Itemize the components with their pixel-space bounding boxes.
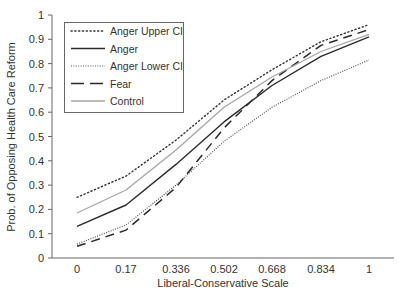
y-tick-label: 1	[38, 9, 44, 21]
x-tick-label: 0	[74, 263, 80, 275]
y-axis-title: Prob. of Opposing Health Care Reform	[5, 42, 17, 232]
y-tick-label: 0.8	[29, 58, 44, 70]
x-tick-label: 1	[366, 263, 372, 275]
y-tick-label: 0.6	[29, 106, 44, 118]
legend-label: Anger	[110, 43, 139, 55]
x-tick-label: 0.502	[210, 263, 238, 275]
y-tick-label: 0.9	[29, 33, 44, 45]
legend-label: Anger Lower CI	[110, 60, 183, 72]
y-tick-label: 0.5	[29, 131, 44, 143]
y-axis: 00.10.20.30.40.50.60.70.80.91	[29, 9, 52, 264]
legend: Anger Upper CIAngerAnger Lower CIFearCon…	[65, 23, 184, 113]
x-axis-title: Liberal-Conservative Scale	[157, 277, 288, 289]
y-tick-label: 0	[38, 252, 44, 264]
y-tick-label: 0.1	[29, 228, 44, 240]
legend-label: Anger Upper CI	[110, 25, 183, 37]
x-tick-label: 0.17	[115, 263, 136, 275]
legend-label: Control	[110, 95, 144, 107]
x-tick-label: 0.668	[258, 263, 286, 275]
x-axis: 00.170.3360.5020.6680.8341	[52, 258, 394, 275]
y-tick-label: 0.4	[29, 155, 44, 167]
x-tick-label: 0.336	[162, 263, 190, 275]
y-tick-label: 0.7	[29, 82, 44, 94]
y-tick-label: 0.3	[29, 179, 44, 191]
line-chart: 00.10.20.30.40.50.60.70.80.91 00.170.336…	[0, 0, 404, 297]
legend-label: Fear	[110, 78, 132, 90]
x-tick-label: 0.834	[307, 263, 335, 275]
y-tick-label: 0.2	[29, 203, 44, 215]
